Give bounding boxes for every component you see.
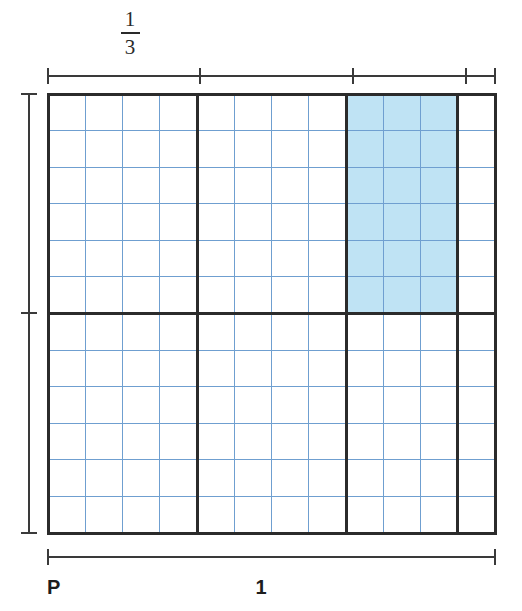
top-ruler bbox=[48, 68, 495, 84]
width-label-one: 1 bbox=[0, 577, 522, 597]
top-fraction-label: 1 3 bbox=[108, 8, 152, 58]
fraction-area-model-figure: 1 3 P 1 bbox=[0, 0, 522, 611]
fraction-bar bbox=[121, 32, 140, 34]
fraction-numerator: 1 bbox=[108, 8, 152, 30]
bottom-ruler bbox=[48, 549, 495, 565]
left-ruler bbox=[21, 94, 37, 533]
fraction-denominator: 3 bbox=[108, 36, 152, 58]
diagram-canvas bbox=[0, 0, 522, 611]
